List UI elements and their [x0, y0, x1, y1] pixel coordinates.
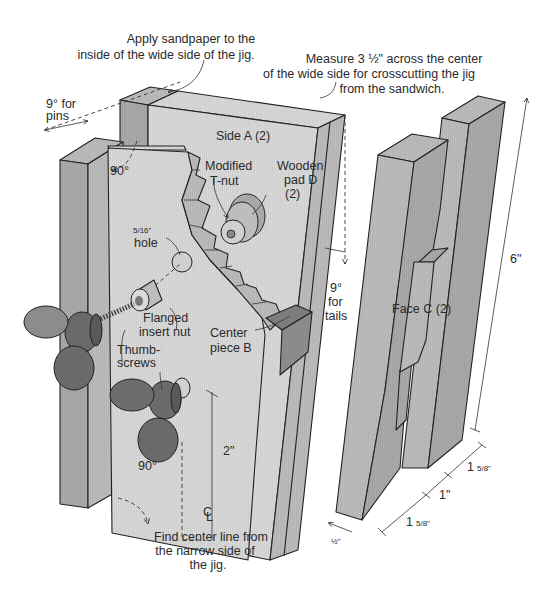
center-piece-line1: Center	[210, 326, 248, 340]
slot-width-dim: 1"	[439, 488, 450, 502]
sandpaper-note-line1: Apply sandpaper to the	[127, 32, 256, 46]
thumbscrew-wing-d	[138, 418, 178, 462]
measure-note-line2: of the wide side for crosscutting the ji…	[263, 67, 475, 81]
center-line-note-1: Find center line from	[154, 530, 268, 544]
thumbscrew-wing-b	[54, 346, 94, 390]
right-width-whole: 1	[467, 460, 474, 474]
jig-assembly	[60, 87, 345, 560]
thumbscrews-line1: Thumb-	[117, 343, 160, 357]
thumbscrews-line2: screws	[117, 356, 156, 370]
5-16-hole	[172, 252, 192, 272]
wooden-pad-line1: Wooden	[277, 159, 323, 173]
tails-angle-line1: 9°	[330, 281, 342, 295]
tnut-label-line1: Modified	[205, 159, 252, 173]
hole-size: 5/16"	[133, 226, 152, 235]
tails-angle-line3: tails	[325, 309, 347, 323]
tails-angle-line2: for	[328, 295, 343, 309]
bottom-90-angle: 90°	[138, 459, 157, 473]
flanged-nut-line2: insert nut	[139, 325, 191, 339]
left-width-frac: 5/8"	[416, 519, 430, 528]
thumbscrew-wing-a	[24, 306, 68, 338]
left-width-whole: 1	[406, 515, 413, 529]
thumbscrew-wing-c	[110, 379, 154, 411]
top-90-angle: 90°	[110, 164, 129, 178]
center-line-note-3: the jig.	[190, 558, 227, 572]
two-inch-dim: 2"	[223, 444, 234, 458]
face-c-label: Face C (2)	[392, 302, 451, 316]
side-a-label: Side A (2)	[216, 129, 270, 143]
six-inch-dim: 6"	[510, 252, 521, 266]
center-piece-line2: piece B	[210, 341, 252, 355]
flanged-nut-line1: Flanged	[143, 311, 188, 325]
wooden-pad-line3: (2)	[285, 187, 300, 201]
measure-note-line3: from the sandwich.	[340, 82, 445, 96]
measure-note-line1: Measure 3 ½" across the center	[306, 52, 483, 66]
sandpaper-note-line2: inside of the wide side of the jig.	[77, 48, 254, 62]
half-inch-dim: ½"	[331, 537, 341, 546]
pins-angle-line2: pins	[46, 109, 69, 123]
tnut-label-line2: T-nut	[210, 174, 239, 188]
dovetail-jig-diagram: Apply sandpaper to the inside of the wid…	[0, 0, 558, 600]
center-line-note-2: the narrow side of	[155, 544, 255, 558]
wooden-pad-line2: pad D	[284, 173, 317, 187]
hole-label: hole	[134, 236, 158, 250]
right-width-frac: 5/8"	[477, 464, 491, 473]
center-line-symbol-sub: L	[206, 510, 213, 524]
